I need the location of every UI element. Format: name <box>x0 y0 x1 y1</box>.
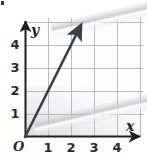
x-tick-label-1: 1 <box>41 141 55 154</box>
x-tick-label-3: 3 <box>87 141 101 154</box>
y-axis-label: y <box>31 23 39 37</box>
coordinate-graph-figure: 4 3 2 1 1 2 3 4 O y x <box>0 0 147 159</box>
y-tick-label-4: 4 <box>8 38 22 51</box>
x-tick-label-2: 2 <box>64 141 78 154</box>
y-tick-label-1: 1 <box>8 107 22 120</box>
x-tick-label-4: 4 <box>110 141 124 154</box>
y-tick-label-2: 2 <box>8 84 22 97</box>
x-axis-label: x <box>126 119 134 133</box>
origin-label: O <box>13 140 24 153</box>
y-tick-label-3: 3 <box>8 61 22 74</box>
graph-canvas <box>0 0 147 159</box>
